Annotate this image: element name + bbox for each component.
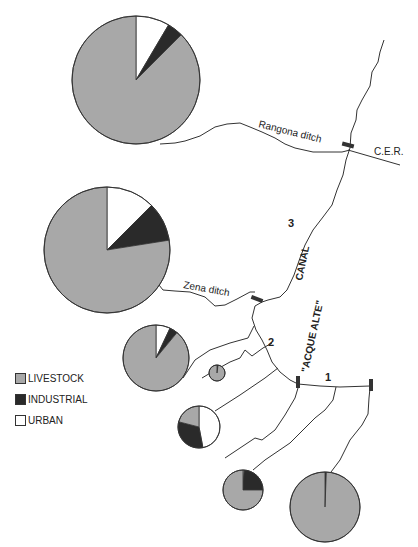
legend-item-industrial: INDUSTRIAL bbox=[15, 389, 87, 410]
diagram-canvas: Rangona ditch C.E.R. Zena ditch CANAL "A… bbox=[0, 0, 418, 547]
pie-4 bbox=[209, 365, 225, 381]
legend-label-livestock: LIVESTOCK bbox=[28, 373, 84, 384]
legend-label-industrial: INDUSTRIAL bbox=[28, 394, 87, 405]
pie-6 bbox=[223, 470, 263, 510]
canal-segment-1 bbox=[298, 384, 370, 387]
canal-segment-3 bbox=[255, 40, 384, 306]
tributary-f bbox=[331, 388, 370, 472]
label-rangona-ditch: Rangona ditch bbox=[258, 118, 323, 144]
livestock-slice bbox=[72, 16, 200, 144]
legend-label-urban: URBAN bbox=[28, 415, 63, 426]
gate-cer bbox=[342, 142, 355, 149]
canal-pollution-diagram: Rangona ditch C.E.R. Zena ditch CANAL "A… bbox=[0, 0, 418, 547]
industrial-swatch bbox=[15, 394, 26, 405]
gate-zena bbox=[251, 295, 264, 303]
pie-7 bbox=[290, 472, 360, 542]
label-segment-2: 2 bbox=[268, 336, 274, 348]
gate-junction bbox=[296, 376, 300, 388]
label-cer: C.E.R. bbox=[374, 146, 403, 157]
urban-swatch bbox=[15, 415, 26, 426]
label-canal: CANAL bbox=[293, 245, 311, 282]
legend-item-urban: URBAN bbox=[15, 410, 87, 431]
pie-charts bbox=[44, 16, 360, 542]
label-segment-3: 3 bbox=[288, 217, 294, 229]
zena-pie bbox=[44, 187, 170, 313]
gate-end bbox=[369, 379, 373, 391]
pie-5 bbox=[178, 406, 220, 448]
label-acque-alte: "ACQUE ALTE" bbox=[299, 299, 325, 373]
rangona-pie bbox=[72, 16, 200, 144]
legend: LIVESTOCK INDUSTRIAL URBAN bbox=[15, 368, 87, 431]
label-segment-1: 1 bbox=[325, 371, 331, 383]
tributary-d bbox=[225, 388, 298, 458]
label-zena-ditch: Zena ditch bbox=[183, 279, 231, 298]
pie-3 bbox=[123, 325, 189, 391]
legend-item-livestock: LIVESTOCK bbox=[15, 368, 87, 389]
livestock-swatch bbox=[15, 373, 26, 384]
canal-segment-2 bbox=[252, 306, 298, 384]
